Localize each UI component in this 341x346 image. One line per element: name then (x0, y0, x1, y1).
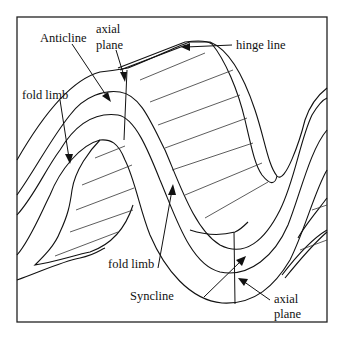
arrow-icon (238, 278, 248, 286)
hatching (55, 53, 327, 256)
label-anticline: Anticline (40, 31, 87, 45)
label-hinge-line: hinge line (236, 38, 286, 52)
arrow-icon (168, 184, 176, 195)
label-axial-plane-top-1: axial (96, 22, 121, 36)
arrow-icon (120, 72, 127, 82)
arrow-icon (102, 92, 111, 102)
label-fold-limb-left: fold limb (22, 88, 68, 102)
fold-diagram: Anticline axial plane hinge line fold li… (0, 0, 341, 346)
fold-layers (17, 42, 327, 303)
leader-lines (60, 43, 270, 300)
label-axial-plane-top-2: plane (96, 38, 124, 52)
label-syncline: Syncline (130, 289, 174, 303)
fold-block-surfaces (17, 41, 327, 280)
label-fold-limb-bottom: fold limb (108, 257, 154, 271)
label-axial-plane-bottom-2: plane (274, 307, 302, 321)
label-axial-plane-bottom-1: axial (274, 292, 299, 306)
arrow-icon (181, 43, 190, 51)
